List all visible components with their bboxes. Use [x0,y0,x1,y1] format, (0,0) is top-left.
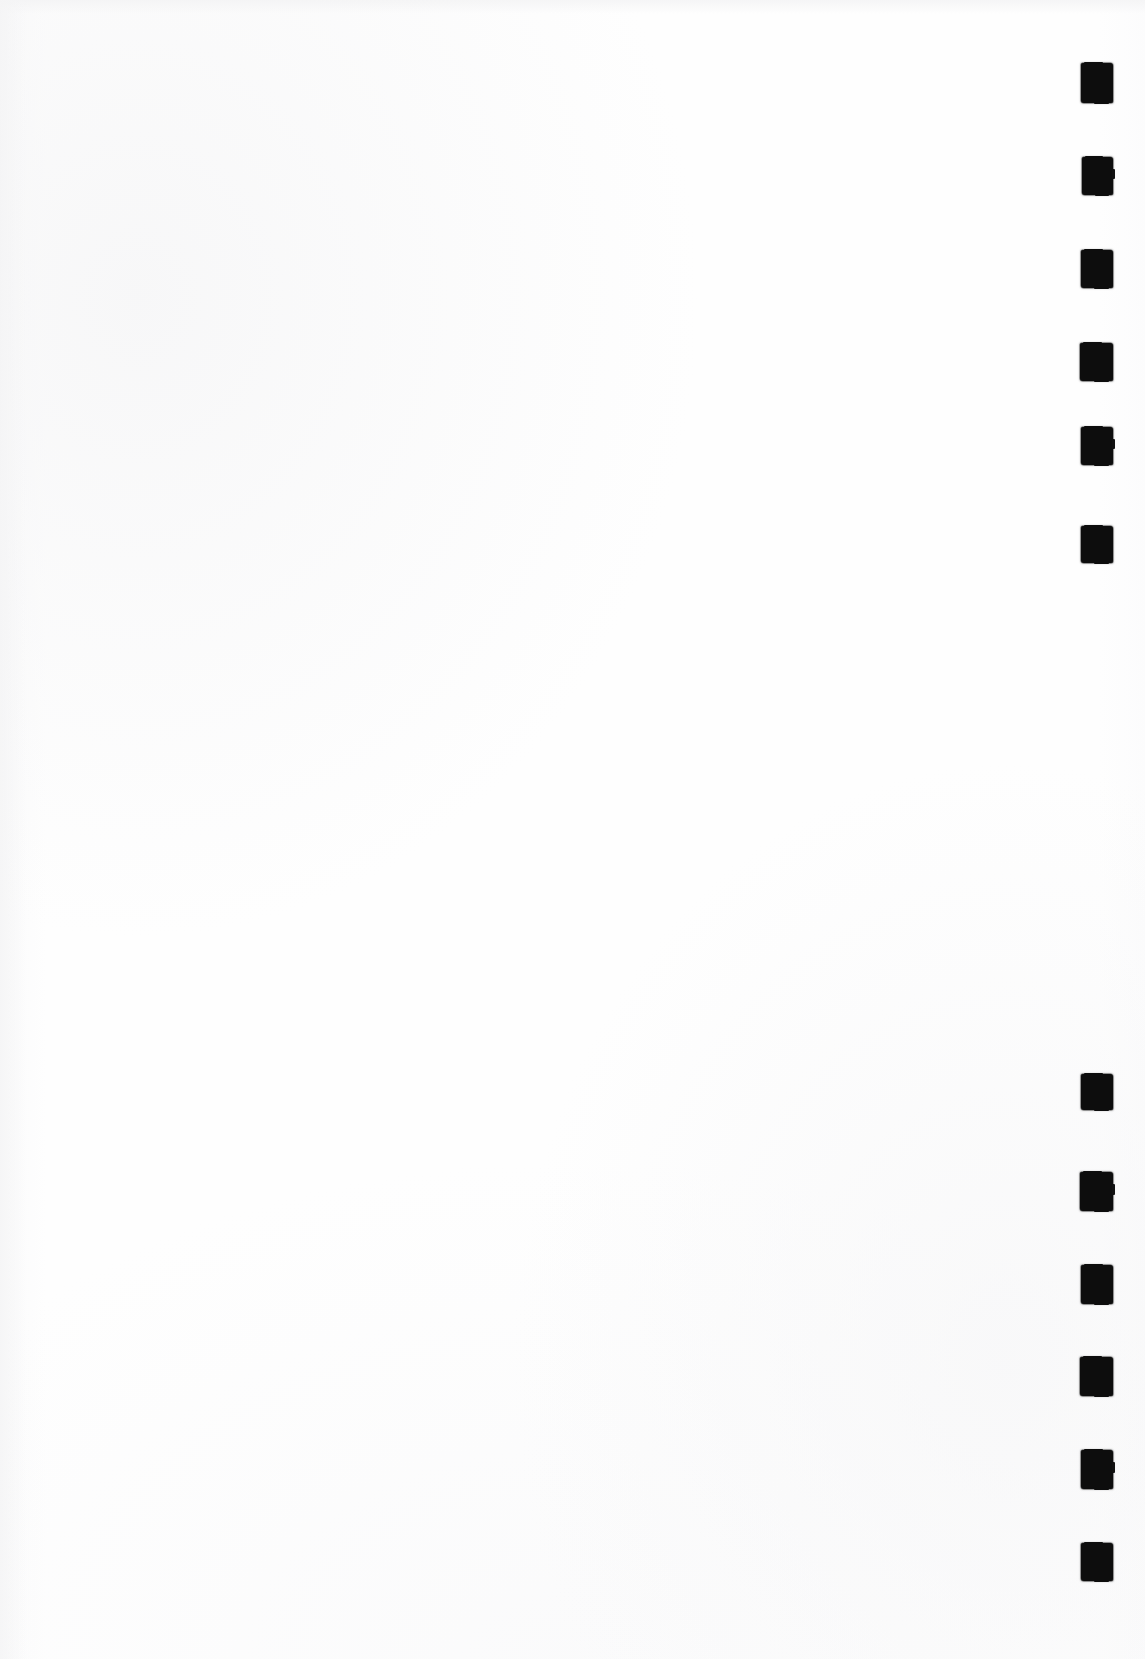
index-mark [1081,1543,1113,1581]
scanned-page [0,0,1145,1659]
ink-edge-artifact [1112,1462,1115,1472]
index-mark [1081,1265,1113,1304]
index-mark [1080,1357,1113,1396]
lower-index-group [0,0,1145,1659]
ink-edge-artifact [1112,1184,1115,1194]
index-mark [1081,1074,1113,1110]
index-mark [1081,1450,1113,1489]
index-mark [1080,1172,1113,1211]
